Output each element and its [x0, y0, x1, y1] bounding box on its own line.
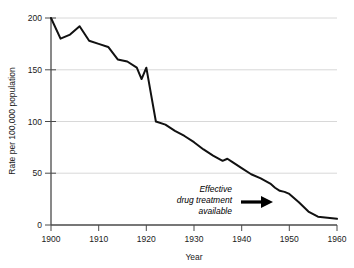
x-tick-label-1920: 1920	[137, 234, 156, 244]
y-tick-label-200: 200	[28, 13, 42, 23]
x-tick-label-1910: 1910	[89, 234, 108, 244]
y-axis-title: Rate per 100,000 population	[7, 67, 17, 175]
annotation-line-2: drug treatment	[177, 195, 233, 205]
x-tick-label-1930: 1930	[185, 234, 204, 244]
x-tick-label-1950: 1950	[280, 234, 299, 244]
y-tick-label-50: 50	[33, 168, 43, 178]
annotation-line-3: available	[198, 206, 232, 216]
x-axis-title: Year	[185, 252, 202, 262]
x-tick-label-1900: 1900	[42, 234, 61, 244]
chart-background	[0, 0, 354, 268]
y-tick-label-100: 100	[28, 117, 42, 127]
annotation-line-1: Effective	[199, 184, 232, 194]
x-tick-label-1940: 1940	[232, 234, 251, 244]
y-tick-label-0: 0	[37, 220, 42, 230]
line-chart: 200 150 100 50 0 1900 1910 1920 1930 194…	[0, 0, 354, 268]
x-tick-label-1960: 1960	[328, 234, 347, 244]
y-tick-label-150: 150	[28, 65, 42, 75]
chart-container: 200 150 100 50 0 1900 1910 1920 1930 194…	[0, 0, 354, 268]
